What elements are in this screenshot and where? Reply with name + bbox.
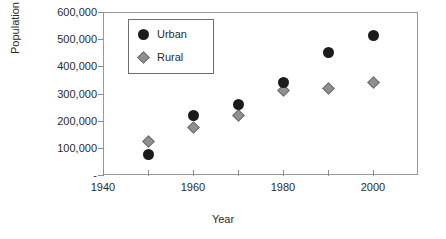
data-point-urban[interactable] — [188, 110, 199, 121]
y-axis-tick-mark — [98, 148, 104, 149]
chart-legend: Urban Rural — [128, 19, 214, 74]
y-axis-tick-mark — [98, 121, 104, 122]
population-scatter-chart: Population -100,000200,000300,000400,000… — [0, 0, 446, 239]
legend-item-rural[interactable]: Rural — [137, 51, 183, 63]
legend-label-urban: Urban — [157, 28, 187, 40]
y-axis-tick-mark — [98, 66, 104, 67]
y-axis-tick-label: 300,000 — [35, 89, 97, 100]
legend-label-rural: Rural — [157, 51, 183, 63]
x-axis-tick-mark — [103, 170, 104, 176]
data-point-urban[interactable] — [368, 30, 379, 41]
x-axis-tick-label: 1940 — [73, 181, 133, 193]
x-axis-tick-mark — [328, 170, 329, 176]
y-axis-tick-label: 100,000 — [35, 143, 97, 154]
x-axis-title: Year — [0, 213, 446, 225]
x-axis-tick-label: 1980 — [253, 181, 313, 193]
data-point-urban[interactable] — [233, 99, 244, 110]
y-axis-tick-mark — [98, 12, 104, 13]
y-axis-tick-label: 200,000 — [35, 116, 97, 127]
x-axis-tick-mark — [238, 170, 239, 176]
y-axis-tick-label: 500,000 — [35, 34, 97, 45]
x-axis-tick-mark — [373, 170, 374, 176]
x-axis-tick-label: 2000 — [343, 181, 403, 193]
y-axis-tick-mark — [98, 94, 104, 95]
x-axis-tick-mark — [193, 170, 194, 176]
data-point-urban[interactable] — [143, 149, 154, 160]
y-axis-tick-label: 600,000 — [35, 7, 97, 18]
y-axis-tick-mark — [98, 39, 104, 40]
data-point-urban[interactable] — [323, 47, 334, 58]
y-axis-title: Population — [9, 0, 21, 83]
x-axis-tick-label: 1960 — [163, 181, 223, 193]
legend-item-urban[interactable]: Urban — [137, 28, 187, 40]
data-point-urban[interactable] — [278, 77, 289, 88]
x-axis-tick-mark — [283, 170, 284, 176]
x-axis-tick-mark — [148, 170, 149, 176]
rural-diamond-marker-icon — [137, 51, 149, 63]
y-axis-tick-label: 400,000 — [35, 61, 97, 72]
urban-circle-marker-icon — [137, 28, 149, 40]
y-axis-tick-label: - — [35, 170, 97, 181]
